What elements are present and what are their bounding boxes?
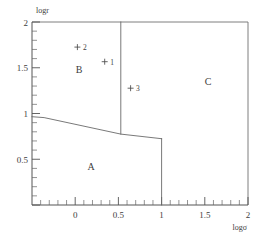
data-point-label-2: 2 [83, 43, 87, 52]
x-axis-tick-labels: 0 0.5 1 1.5 2 [73, 210, 250, 220]
region-boundaries [32, 22, 162, 205]
data-point-marker-2 [74, 44, 80, 50]
data-point-label-1: 1 [110, 58, 114, 67]
region-label-b: B [76, 64, 83, 75]
region-diagram-chart: 2 1.5 1 0.5 0 0.5 1 1.5 2 logr logσ 2 [0, 0, 262, 239]
plot-frame [32, 22, 248, 205]
x-tick-label: 0.5 [113, 210, 125, 220]
y-tick-label: 1 [24, 109, 29, 119]
y-tick-label: 2 [24, 18, 29, 28]
x-axis-minor-ticks [41, 200, 240, 205]
boundary-a-upper-sloped [32, 117, 162, 139]
region-label-a: A [87, 161, 95, 172]
data-point-marker-1 [102, 59, 108, 65]
data-point-label-3: 3 [136, 84, 140, 93]
data-point-marker-3 [128, 85, 134, 91]
x-axis-title: logσ [232, 223, 247, 232]
x-tick-label: 1.5 [199, 210, 211, 220]
x-tick-label: 0 [73, 210, 78, 220]
data-points: 2 1 3 [74, 43, 140, 93]
figure-container: 2 1.5 1 0.5 0 0.5 1 1.5 2 logr logσ 2 [0, 0, 262, 239]
x-tick-label: 1 [159, 210, 164, 220]
y-tick-label: 0.5 [17, 155, 29, 165]
region-label-c: C [205, 76, 212, 87]
region-labels: A B C [76, 64, 212, 172]
y-tick-label: 1.5 [17, 63, 29, 73]
y-axis-title: logr [36, 6, 49, 15]
y-axis-tick-labels: 2 1.5 1 0.5 [17, 18, 29, 165]
x-tick-label: 2 [246, 210, 251, 220]
